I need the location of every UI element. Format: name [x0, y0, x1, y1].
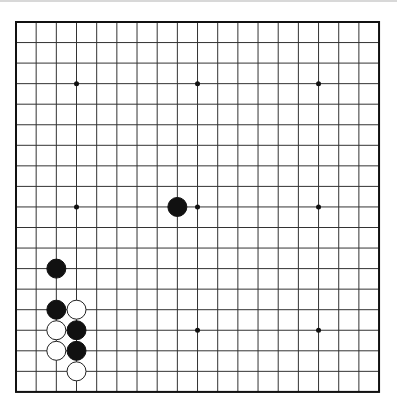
- star-point: [195, 328, 200, 333]
- white-stone: [67, 362, 86, 381]
- black-stone: [67, 341, 86, 360]
- star-point: [74, 81, 79, 86]
- star-point: [195, 204, 200, 209]
- white-stone: [47, 341, 66, 360]
- star-point: [195, 81, 200, 86]
- go-board[interactable]: [0, 0, 397, 408]
- star-point: [74, 204, 79, 209]
- black-stone: [47, 300, 66, 319]
- black-stone: [67, 321, 86, 340]
- black-stone: [168, 197, 187, 216]
- star-point: [316, 204, 321, 209]
- white-stone: [47, 321, 66, 340]
- white-stone: [67, 300, 86, 319]
- star-point: [316, 81, 321, 86]
- star-point: [316, 328, 321, 333]
- black-stone: [47, 259, 66, 278]
